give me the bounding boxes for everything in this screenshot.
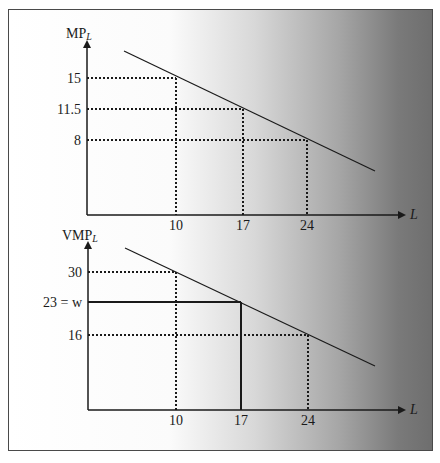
y-axis-label: MPL	[66, 26, 92, 42]
y-axis-label: VMPL	[62, 228, 98, 244]
reference-lines	[88, 272, 308, 410]
x-tick: 17	[234, 413, 248, 428]
x-axis-label: L	[409, 402, 418, 417]
y-tick: 30	[68, 265, 82, 280]
x-tick: 24	[300, 218, 314, 233]
vmpl-curve	[125, 248, 375, 366]
vmpl-chart: VMPL L 30 23 = w 16 10 17 24	[43, 228, 418, 428]
reference-lines	[87, 78, 307, 215]
y-tick: 8	[74, 133, 81, 148]
y-tick: 15	[67, 71, 81, 86]
x-tick: 24	[301, 413, 315, 428]
wage-label: 23 = w	[43, 295, 83, 310]
x-tick: 10	[169, 413, 183, 428]
x-tick: 10	[169, 218, 183, 233]
economics-chart: MPL L 15 11.5 8 10 17 24 VMPL L	[0, 0, 440, 463]
x-axis-label: L	[409, 207, 418, 222]
x-tick: 17	[236, 218, 250, 233]
mpl-chart: MPL L 15 11.5 8 10 17 24	[57, 26, 418, 233]
mpl-curve	[124, 51, 375, 171]
y-tick: 11.5	[57, 102, 81, 117]
y-tick: 16	[68, 328, 82, 343]
